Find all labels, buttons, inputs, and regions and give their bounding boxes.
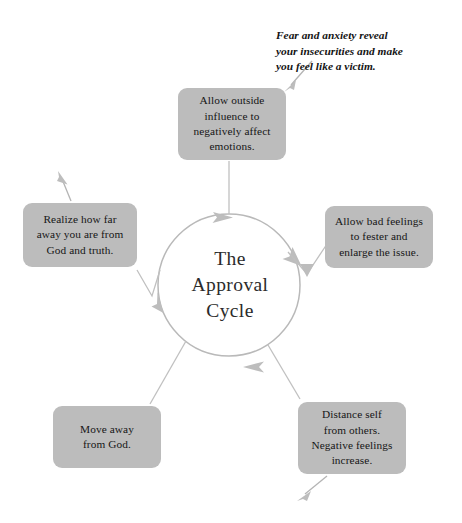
node-right-label: Allow bad feelings to fester and enlarge… [335,214,423,260]
node-left-label: Realize how far away you are from God an… [37,212,124,258]
outgoing-arrow-left-box [57,171,71,201]
cycle-center-label: The Approval Cycle [160,246,300,324]
annotation-text: Fear and anxiety reveal your insecuritie… [276,28,456,75]
node-realize-how-far[interactable]: Realize how far away you are from God an… [23,203,137,267]
connector-bottom-right [268,345,300,399]
ring-arrow-bottom [243,362,264,373]
node-move-away-from-god[interactable]: Move away from God. [53,406,161,468]
connector-right-arrowhead [300,264,314,277]
node-allow-bad-feelings[interactable]: Allow bad feelings to fester and enlarge… [325,206,433,268]
connector-bottom-left [150,341,186,404]
node-bottom-left-label: Move away from God. [80,422,134,453]
connector-left [137,270,160,296]
node-bottom-right-label: Distance self from others. Negative feel… [311,407,392,469]
node-allow-outside-influence[interactable]: Allow outside influence to negatively af… [178,88,286,160]
outgoing-arrow-bottom-right-box [297,476,327,501]
node-distance-self[interactable]: Distance self from others. Negative feel… [298,402,406,474]
node-top-label: Allow outside influence to negatively af… [193,93,270,155]
approval-cycle-diagram: .ring { fill: none; stroke: #b9b9b9; str… [0,0,462,523]
